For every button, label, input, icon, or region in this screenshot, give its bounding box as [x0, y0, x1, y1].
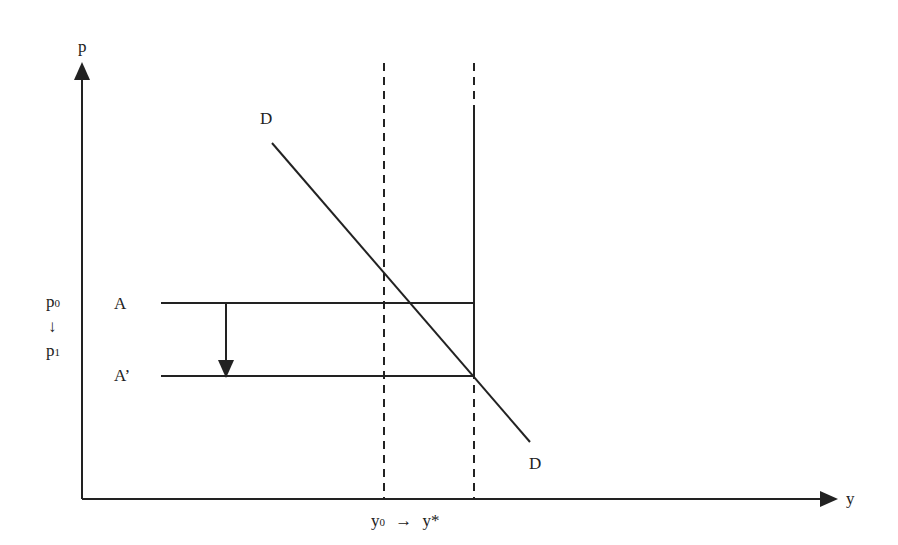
A-label: A [114, 295, 126, 312]
y-axis [74, 62, 90, 499]
x-axis-arrowhead-icon [820, 491, 838, 507]
ystar-label: y* [423, 511, 440, 530]
quantity-labels: y0 → y* [371, 512, 440, 529]
y0-sub: 0 [380, 516, 386, 528]
x-axis [82, 491, 838, 507]
price-shift-arrow [218, 303, 234, 378]
demand-label-top: D [260, 110, 272, 127]
A-prime-label: A’ [114, 367, 130, 384]
y-axis-label: p [78, 38, 87, 55]
diagram-canvas: p y D D p0 ↓ p1 A A’ y0 → y* [0, 0, 898, 545]
p0-label: p0 [46, 293, 60, 310]
diagram-svg [0, 0, 898, 545]
p0-base: p [46, 292, 55, 311]
p1-label: p1 [46, 342, 60, 359]
p1-sub: 1 [55, 346, 61, 358]
price-down-arrow-icon: ↓ [48, 318, 57, 335]
quantity-right-arrow-icon: → [395, 511, 412, 530]
y0-base: y [371, 511, 380, 530]
p0-sub: 0 [55, 297, 61, 309]
x-axis-label: y [846, 490, 855, 507]
y-axis-arrowhead-icon [74, 62, 90, 80]
demand-label-bottom: D [529, 455, 541, 472]
p1-base: p [46, 341, 55, 360]
demand-curve [272, 143, 530, 442]
